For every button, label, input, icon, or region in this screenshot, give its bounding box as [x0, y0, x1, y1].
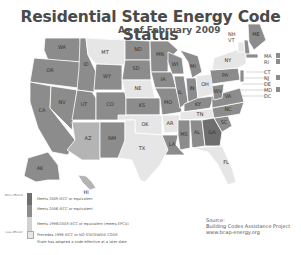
state-nj[interactable]	[240, 70, 244, 82]
state-fl[interactable]	[192, 146, 236, 185]
callout-dc[interactable]: DC	[264, 93, 271, 99]
svg-text:IL: IL	[178, 89, 182, 95]
svg-text:VA: VA	[225, 93, 232, 99]
svg-text:NC: NC	[224, 106, 232, 112]
svg-text:OK: OK	[141, 121, 149, 127]
source-url[interactable]: www.bcap-energy.org	[206, 229, 290, 235]
svg-text:IN: IN	[189, 85, 194, 91]
svg-text:LA: LA	[169, 141, 176, 147]
svg-text:MO: MO	[164, 99, 172, 105]
svg-text:SC: SC	[221, 119, 228, 125]
svg-text:ND: ND	[134, 46, 142, 52]
svg-text:KS: KS	[139, 102, 145, 108]
svg-text:NM: NM	[108, 135, 116, 141]
svg-text:AK: AK	[37, 165, 44, 171]
svg-text:SD: SD	[132, 65, 139, 71]
svg-text:WY: WY	[103, 73, 112, 79]
legend-label-precedes: Precedes 1998 IECC or NO STATEWIDE CODE	[37, 233, 118, 237]
map-legend: More efficient Less efficient Meets 2009…	[3, 193, 153, 253]
svg-text:NV: NV	[58, 99, 66, 105]
swatch-ri	[276, 59, 280, 64]
legend-more-efficient: More efficient	[5, 194, 23, 197]
legend-label-later-date: State has adopted a code effective at a …	[37, 240, 127, 244]
svg-text:CO: CO	[106, 101, 113, 107]
page-subtitle: As of February 2009	[118, 25, 220, 35]
svg-text:MN: MN	[156, 51, 164, 57]
svg-text:FL: FL	[223, 159, 229, 165]
svg-text:NY: NY	[225, 57, 233, 63]
svg-text:AR: AR	[167, 120, 174, 126]
svg-text:TN: TN	[196, 111, 204, 117]
svg-text:WI: WI	[172, 61, 178, 67]
legend-swatch-1998-2003	[27, 217, 32, 231]
svg-text:WA: WA	[58, 44, 67, 50]
legend-swatch-2009	[27, 193, 32, 205]
svg-text:UT: UT	[81, 101, 89, 107]
svg-text:PA: PA	[222, 72, 229, 78]
legend-swatch-2006	[27, 205, 32, 217]
svg-text:NE: NE	[135, 85, 142, 91]
source-credit: Source: Building Codes Assistance Projec…	[206, 217, 290, 235]
svg-text:IA: IA	[161, 76, 166, 82]
callout-ri[interactable]: RI	[264, 59, 269, 65]
legend-label-2009: Meets 2009 IECC or equivalent	[37, 197, 93, 201]
callout-vt[interactable]: VT	[228, 37, 234, 43]
svg-text:GA: GA	[208, 129, 216, 135]
svg-text:AZ: AZ	[85, 135, 92, 141]
legend-swatch-precedes	[27, 231, 34, 239]
state-ma[interactable]	[246, 54, 258, 58]
svg-text:AL: AL	[194, 129, 200, 135]
state-hi[interactable]	[78, 175, 96, 190]
swatch-ma	[276, 53, 280, 58]
svg-text:WV: WV	[214, 88, 223, 94]
svg-text:OR: OR	[46, 67, 54, 73]
svg-text:MS: MS	[180, 131, 188, 137]
svg-text:CA: CA	[39, 107, 46, 113]
legend-label-1998-2003: Meets 1998/2003 IECC or equivalent (meet…	[37, 222, 129, 226]
svg-text:OH: OH	[201, 81, 209, 87]
svg-text:TX: TX	[138, 145, 146, 151]
svg-text:MI: MI	[190, 63, 196, 69]
legend-less-efficient: Less efficient	[5, 231, 23, 234]
svg-text:KY: KY	[195, 101, 202, 107]
swatch-md	[276, 87, 280, 92]
swatch-nj	[276, 75, 280, 80]
svg-text:ID: ID	[83, 61, 88, 67]
svg-text:MT: MT	[101, 49, 109, 55]
legend-label-2006: Meets 2006 IECC or equivalent	[37, 207, 93, 211]
